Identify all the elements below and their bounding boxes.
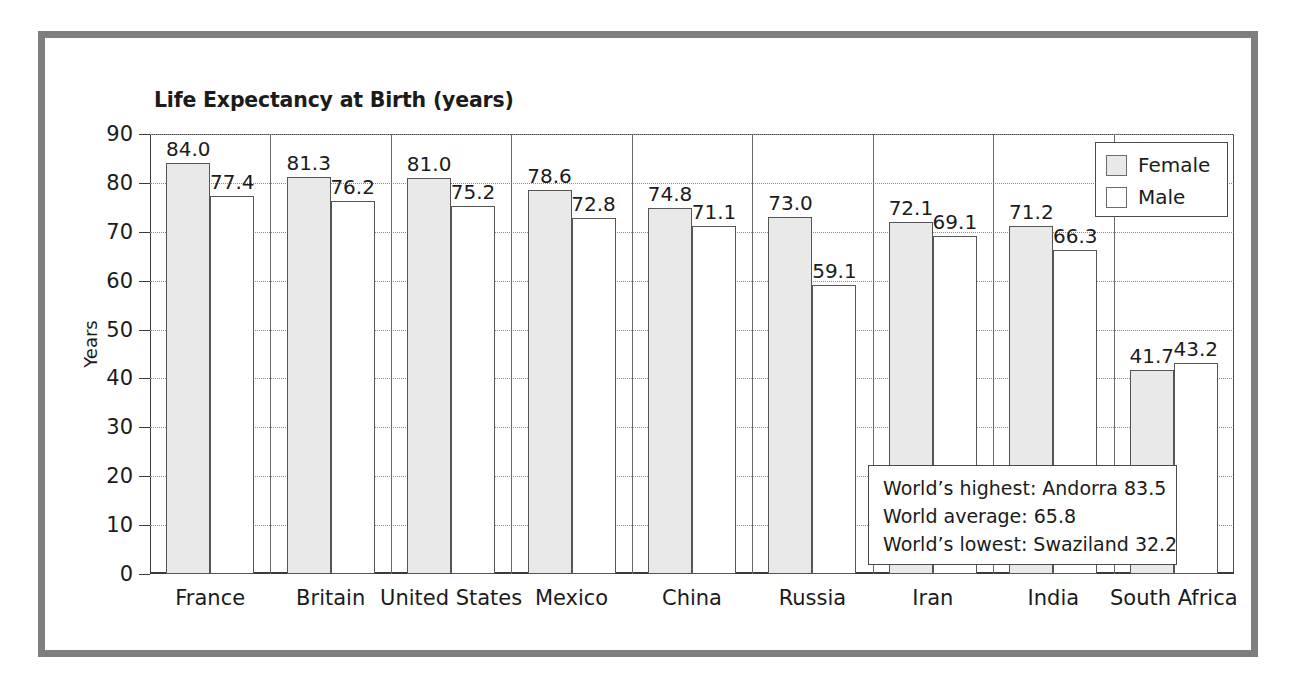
y-axis-tick [139,378,150,379]
bar-value-label: 59.1 [812,259,857,283]
bar-value-label: 77.4 [210,170,255,194]
y-axis-tick [139,427,150,428]
legend-swatch-male-icon [1106,187,1127,208]
group-separator [270,134,271,574]
bar-mexico-male[interactable] [572,218,616,574]
chart-legend: Female Male [1095,142,1228,217]
bar-value-label: 43.2 [1173,337,1218,361]
bar-value-label: 41.7 [1130,344,1175,368]
y-axis-tick [139,330,150,331]
y-axis-tick-label: 60 [106,269,133,293]
figure-frame: Life Expectancy at Birth (years) Years 0… [38,31,1258,657]
legend-item-male: Male [1106,181,1227,213]
annotation-line-average: World average: 65.8 [883,502,1176,530]
legend-label-female: Female [1138,155,1210,175]
y-axis-tick [139,183,150,184]
x-axis-label-france: France [175,586,245,610]
annotation-box: World’s highest: Andorra 83.5 World aver… [868,465,1177,565]
bar-mexico-female[interactable] [528,190,572,574]
y-axis-tick-label: 70 [106,220,133,244]
y-axis-tick-label: 0 [120,562,133,586]
y-axis-tick [139,232,150,233]
y-axis-tick [139,574,150,575]
legend-swatch-female-icon [1106,155,1127,176]
group-separator [391,134,392,574]
y-axis-tick-label: 40 [106,366,133,390]
x-axis-label-mexico: Mexico [535,586,608,610]
bar-value-label: 78.6 [527,164,572,188]
x-axis-label-south-africa: South Africa [1110,586,1238,610]
y-axis-title: Years [80,320,101,368]
bar-value-label: 73.0 [768,191,813,215]
bar-china-female[interactable] [648,208,692,574]
y-axis-tick-label: 90 [106,122,133,146]
group-separator [752,134,753,574]
x-axis-label-britain: Britain [296,586,365,610]
x-axis-label-united-states: United States [380,586,522,610]
x-axis-label-china: China [662,586,722,610]
legend-item-female: Female [1106,149,1227,181]
chart-title: Life Expectancy at Birth (years) [154,88,514,112]
y-axis-tick-label: 80 [106,171,133,195]
y-axis-tick [139,281,150,282]
bar-value-label: 71.1 [692,200,737,224]
y-axis-tick [139,476,150,477]
y-axis-tick [139,525,150,526]
bar-value-label: 81.0 [407,152,452,176]
bar-britain-female[interactable] [287,177,331,574]
bar-value-label: 76.2 [330,175,375,199]
bar-south-africa-male[interactable] [1174,363,1218,574]
annotation-line-lowest: World’s lowest: Swaziland 32.2 [883,530,1176,558]
annotation-line-highest: World’s highest: Andorra 83.5 [883,474,1176,502]
bar-value-label: 72.8 [571,192,616,216]
bar-value-label: 84.0 [166,137,211,161]
x-axis-label-russia: Russia [779,586,847,610]
bar-united-states-female[interactable] [407,178,451,574]
bar-value-label: 75.2 [451,180,496,204]
bar-value-label: 74.8 [648,182,693,206]
group-separator [632,134,633,574]
y-axis-tick-label: 20 [106,464,133,488]
bar-britain-male[interactable] [331,201,375,574]
bar-france-female[interactable] [166,163,210,574]
x-axis-label-india: India [1028,586,1080,610]
bar-russia-female[interactable] [768,217,812,574]
x-axis-label-iran: Iran [912,586,953,610]
y-axis-tick [139,134,150,135]
bar-value-label: 71.2 [1009,200,1054,224]
y-axis-tick-label: 50 [106,318,133,342]
bar-value-label: 69.1 [933,210,978,234]
bar-value-label: 66.3 [1053,224,1098,248]
bar-united-states-male[interactable] [451,206,495,574]
group-separator [511,134,512,574]
y-axis-tick-label: 10 [106,513,133,537]
bar-france-male[interactable] [210,196,254,574]
bar-value-label: 72.1 [889,196,934,220]
bar-value-label: 81.3 [286,151,331,175]
bar-china-male[interactable] [692,226,736,574]
legend-label-male: Male [1138,187,1185,207]
bar-russia-male[interactable] [812,285,856,574]
y-axis-tick-label: 30 [106,415,133,439]
